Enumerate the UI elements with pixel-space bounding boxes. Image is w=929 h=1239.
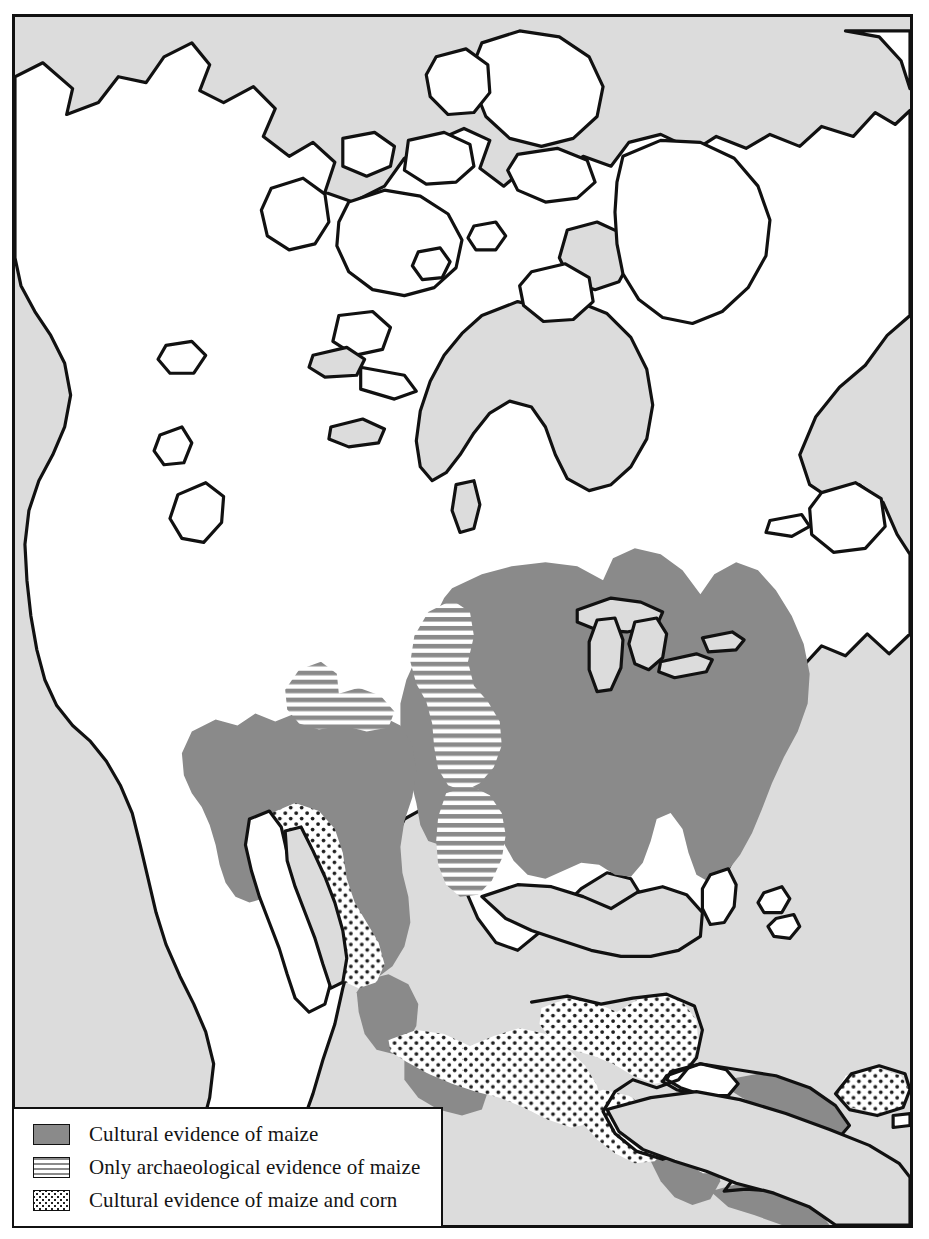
stipple-dot-swatch — [33, 1190, 70, 1211]
lake-winnipeg — [452, 481, 480, 533]
legend-item-archaeological-maize[interactable]: Only archaeological evidence of maize — [14, 1151, 441, 1184]
map-page: Cultural evidence of maize Only archaeol… — [0, 0, 929, 1239]
legend-label-cultural-maize: Cultural evidence of maize — [89, 1122, 318, 1147]
banks-island — [261, 178, 329, 250]
legend-label-archaeological-maize: Only archaeological evidence of maize — [89, 1155, 420, 1180]
map-legend: Cultural evidence of maize Only archaeol… — [12, 1107, 443, 1228]
north-america-map[interactable] — [15, 17, 910, 1225]
legend-item-maize-and-corn[interactable]: Cultural evidence of maize and corn — [14, 1184, 441, 1217]
arctic-islet-a — [412, 248, 450, 280]
arctic-islet-e — [158, 341, 206, 373]
melville-island — [404, 132, 474, 184]
horizontal-stripe-swatch — [33, 1157, 70, 1178]
solid-gray-swatch — [33, 1124, 70, 1145]
puerto-rico-island — [893, 1114, 910, 1128]
arctic-islet-b — [468, 222, 506, 250]
southampton-island — [520, 264, 594, 322]
legend-item-cultural-maize[interactable]: Cultural evidence of maize — [14, 1118, 441, 1151]
map-frame — [12, 14, 913, 1228]
legend-label-maize-and-corn: Cultural evidence of maize and corn — [89, 1188, 397, 1213]
